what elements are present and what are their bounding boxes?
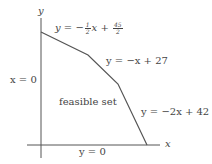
y-axis-label: y bbox=[38, 6, 44, 16]
feasible-set-diagram: y x y = −12x + 452 y = −x + 27 y = −2x +… bbox=[0, 0, 212, 164]
constraint-left-label: x = 0 bbox=[10, 75, 37, 85]
constraint-middle-label: y = −x + 27 bbox=[106, 56, 168, 66]
x-axis-label: x bbox=[165, 139, 171, 149]
feasible-boundary bbox=[41, 32, 147, 145]
constraint-top-label: y = −12x + 452 bbox=[55, 22, 124, 35]
constraint-right-label: y = −2x + 42 bbox=[141, 107, 209, 117]
feasible-set-label: feasible set bbox=[59, 97, 117, 107]
constraint-bottom-label: y = 0 bbox=[79, 147, 106, 157]
